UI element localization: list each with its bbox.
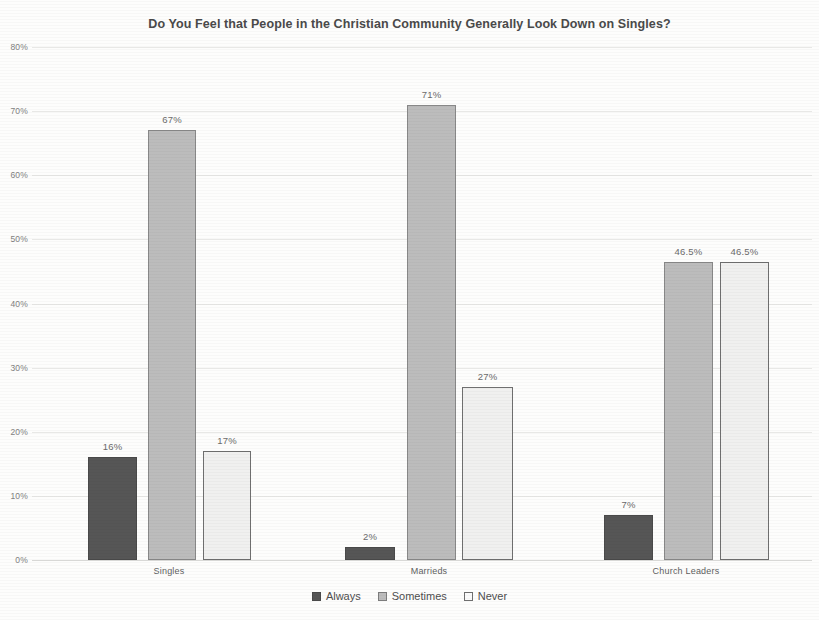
y-axis-tick-label: 60% [0,170,28,180]
gridline-0 [32,560,812,561]
legend-item-sometimes[interactable]: Sometimes [378,591,447,602]
bar-never-singles [203,451,251,560]
chart-title: Do You Feel that People in the Christian… [0,17,819,31]
bar-value-label: 67% [136,114,208,125]
y-axis-tick-label: 0% [0,555,28,565]
y-axis-tick-label: 50% [0,234,28,244]
bar-chart: Do You Feel that People in the Christian… [0,0,819,620]
bar-value-label: 17% [191,435,263,446]
legend-label: Never [478,591,507,602]
plot-area: 16%67%17%2%71%27%7%46.5%46.5% [32,47,812,560]
legend-swatch-icon-always [312,592,321,601]
bar-value-label: 27% [450,371,525,382]
y-axis-tick-label: 30% [0,363,28,373]
category-label-singles: Singles [99,566,239,576]
bar-value-label: 7% [592,499,665,510]
bar-always-church-leaders [604,515,653,560]
legend-swatch-icon-never [464,592,473,601]
bar-always-singles [88,457,137,560]
gridline-80 [32,47,812,48]
bar-never-church-leaders [720,262,769,560]
chart-legend: AlwaysSometimesNever [0,591,819,602]
legend-item-always[interactable]: Always [312,591,361,602]
bar-sometimes-singles [148,130,196,560]
legend-swatch-icon-sometimes [378,592,387,601]
bar-value-label: 16% [76,441,149,452]
bar-never-marrieds [462,387,513,560]
y-axis-tick-label: 10% [0,491,28,501]
bar-value-label: 2% [333,531,407,542]
category-label-marrieds: Marrieds [359,566,499,576]
bar-value-label: 71% [395,89,468,100]
category-label-church-leaders: Church Leaders [616,566,756,576]
bar-sometimes-church-leaders [664,262,713,560]
bar-sometimes-marrieds [407,105,456,560]
bar-value-label: 46.5% [708,246,781,257]
y-axis-tick-label: 70% [0,106,28,116]
y-axis-tick-label: 20% [0,427,28,437]
y-axis-tick-label: 80% [0,42,28,52]
legend-item-never[interactable]: Never [464,591,507,602]
y-axis-tick-label: 40% [0,299,28,309]
bar-always-marrieds [345,547,395,560]
legend-label: Sometimes [392,591,447,602]
legend-label: Always [326,591,361,602]
